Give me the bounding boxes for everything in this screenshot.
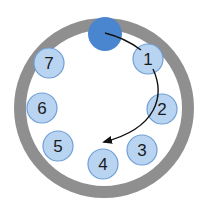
slot-4: 4	[88, 149, 118, 179]
slot-label: 5	[53, 137, 62, 156]
rotation-diagram: 1 2 3 4 5 6 7	[0, 0, 201, 209]
slot-3: 3	[127, 135, 157, 165]
active-dot	[88, 17, 122, 51]
slot-label: 3	[137, 141, 146, 160]
slot-7: 7	[34, 48, 64, 78]
slot-label: 1	[143, 50, 152, 69]
slot-label: 6	[37, 99, 46, 118]
slot-6: 6	[27, 93, 57, 123]
slot-label: 7	[44, 54, 53, 73]
slot-label: 4	[98, 155, 107, 174]
slot-label: 2	[157, 100, 166, 119]
slot-1: 1	[133, 44, 163, 74]
slot-5: 5	[43, 131, 73, 161]
slot-2: 2	[147, 94, 177, 124]
